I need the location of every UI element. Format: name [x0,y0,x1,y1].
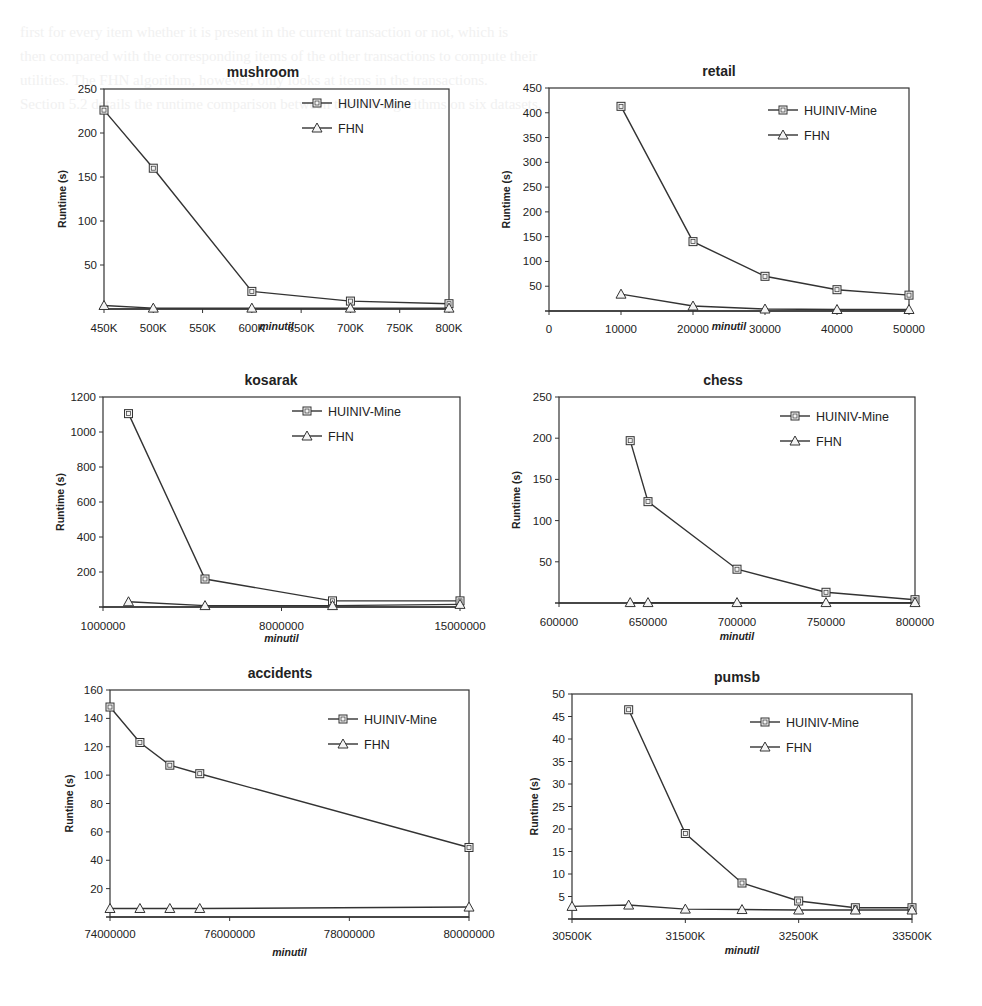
square-marker [689,238,697,246]
legend: HUINIV-MineFHN [302,97,411,136]
square-marker [196,770,204,778]
y-tick-label: 35 [552,756,565,768]
square-marker [905,291,913,299]
legend-label: FHN [364,738,390,752]
y-tick-label: 1000 [70,426,96,438]
y-axis-label: Runtime (s) [510,471,522,529]
y-tick-label: 150 [523,231,542,243]
chart-title: retail [702,63,735,79]
x-tick-label: 750000 [807,616,845,628]
plot-area-frame [103,397,460,607]
square-marker [339,715,347,723]
chart-chess: chess50100150200250600000650000700000750… [510,372,934,642]
y-tick-label: 600 [77,496,96,508]
y-tick-label: 140 [84,712,103,724]
x-axis-label: minutil [259,320,294,332]
square-marker [303,407,311,415]
square-marker [761,718,769,726]
x-tick-label: 8000000 [259,620,304,632]
y-axis-label: Runtime (s) [54,473,66,531]
x-tick-label: 80000000 [443,928,494,940]
chart-title: kosarak [245,372,298,388]
x-tick-label: 31500K [666,930,706,942]
legend: HUINIV-MineFHN [750,716,859,755]
y-tick-label: 50 [539,556,552,568]
y-tick-label: 25 [552,801,565,813]
square-marker [795,897,803,905]
x-tick-label: 30500K [552,930,592,942]
y-axis-label: Runtime (s) [63,775,75,833]
x-tick-label: 550K [189,322,216,334]
y-tick-label: 60 [90,826,103,838]
square-marker [833,286,841,294]
series-huiniv-mine [100,106,453,308]
x-tick-label: 20000 [677,323,709,335]
y-tick-label: 30 [552,778,565,790]
legend-label: HUINIV-Mine [786,716,859,730]
plot-area-frame [104,89,449,309]
x-tick-label: 750K [386,322,413,334]
square-marker [644,498,652,506]
y-tick-label: 100 [523,255,542,267]
y-tick-label: 400 [523,107,542,119]
series-huiniv-mine [125,410,465,605]
y-axis-label: Runtime (s) [500,171,512,229]
y-axis-label: Runtime (s) [528,778,540,836]
x-axis-label: minutil [272,946,307,958]
y-tick-label: 100 [533,515,552,527]
y-tick-label: 160 [84,684,103,696]
y-tick-label: 50 [84,259,97,271]
series-fhn [567,900,917,914]
y-tick-label: 200 [533,432,552,444]
y-tick-label: 40 [552,733,565,745]
square-marker [681,830,689,838]
x-tick-label: 76000000 [204,928,255,940]
y-tick-label: 20 [552,823,565,835]
square-marker [100,106,108,114]
x-tick-label: 32500K [779,930,819,942]
x-axis-label: minutil [264,632,299,644]
x-axis-label: minutil [712,320,747,332]
chart-accidents: accidents2040608010012014016074000000760… [63,665,495,958]
y-tick-label: 100 [78,215,97,227]
x-axis-label: minutil [725,944,760,956]
square-marker [733,565,741,573]
y-tick-label: 250 [523,181,542,193]
legend: HUINIV-MineFHN [328,713,437,752]
y-axis-label: Runtime (s) [56,170,68,228]
x-tick-label: 800K [436,322,463,334]
legend: HUINIV-MineFHN [292,405,401,444]
chart-kosarak: kosarak200400600800100012001000000800000… [54,372,486,644]
x-tick-label: 10000 [605,323,637,335]
y-tick-label: 50 [529,280,542,292]
y-tick-label: 40 [90,854,103,866]
plot-area-frame [549,88,909,311]
square-marker [248,287,256,295]
legend-label: HUINIV-Mine [364,713,437,727]
x-tick-label: 15000000 [434,620,485,632]
x-tick-label: 650000 [629,616,667,628]
legend-label: HUINIV-Mine [338,97,411,111]
square-marker [625,706,633,714]
square-marker [313,99,321,107]
x-tick-label: 78000000 [324,928,375,940]
square-marker [106,703,114,711]
y-tick-label: 50 [552,688,565,700]
y-tick-label: 350 [523,132,542,144]
x-tick-label: 33500K [892,930,932,942]
x-tick-label: 700000 [718,616,756,628]
square-marker [201,575,209,583]
square-marker [822,588,830,596]
x-tick-label: 700K [337,322,364,334]
y-tick-label: 250 [533,391,552,403]
y-tick-label: 200 [78,127,97,139]
series-huiniv-mine [625,706,916,912]
chart-retail: retail5010015020025030035040045001000020… [500,63,925,335]
y-tick-label: 450 [523,82,542,94]
legend-label: FHN [338,122,364,136]
x-tick-label: 0 [546,323,552,335]
chart-title: pumsb [714,669,760,685]
y-tick-label: 200 [523,206,542,218]
square-marker [626,437,634,445]
y-tick-label: 400 [77,531,96,543]
